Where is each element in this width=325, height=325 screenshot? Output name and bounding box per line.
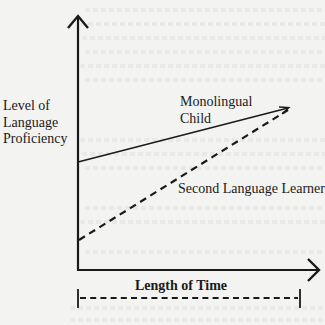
y-axis-label-line-2: Language — [3, 115, 75, 132]
series-label-monolingual-line-1: Monolingual — [180, 94, 252, 111]
series-label-monolingual-child: Monolingual Child — [180, 94, 252, 127]
figure-page: Level of Language Proficiency Monolingua… — [0, 0, 325, 325]
series-label-monolingual-line-2: Child — [180, 111, 252, 128]
x-axis-label: Length of Time — [135, 278, 227, 294]
chart-canvas — [0, 0, 325, 325]
series-label-second-language-learner: Second Language Learner — [178, 181, 325, 197]
series-second-language-learner-line — [79, 110, 288, 240]
y-axis-label: Level of Language Proficiency — [3, 98, 75, 148]
y-axis-label-line-3: Proficiency — [3, 131, 75, 148]
y-axis-label-line-1: Level of — [3, 98, 75, 115]
